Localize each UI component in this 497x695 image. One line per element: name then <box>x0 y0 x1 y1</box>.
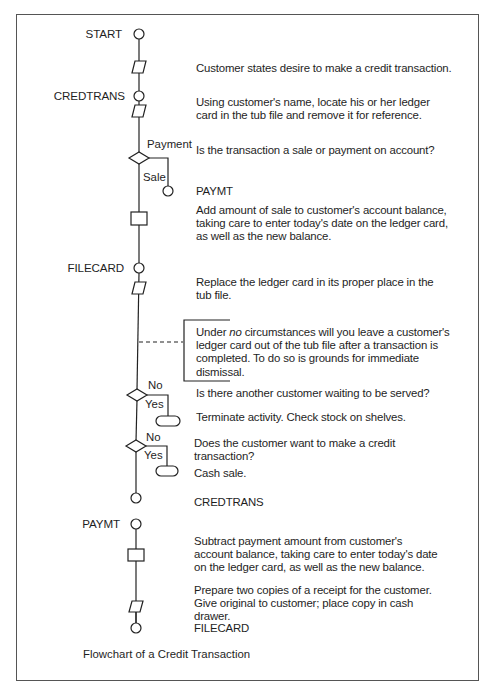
start-connector-icon <box>134 29 144 39</box>
connector-label-credtrans: CREDTRANS <box>30 89 125 103</box>
decision-diamond-icon <box>127 389 147 401</box>
step-description: Subtract payment amount from customer's … <box>194 535 444 575</box>
credtrans-connector-icon <box>131 493 141 503</box>
terminal-description: Cash sale. <box>194 467 459 480</box>
connector-label-start: START <box>60 27 122 41</box>
connector-label-paymt: PAYMT <box>50 517 120 531</box>
branch-label-no: No <box>148 379 163 392</box>
step-description: Customer states desire to make a credit … <box>196 62 476 75</box>
flow-line <box>136 400 137 441</box>
credtrans-connector-icon <box>134 91 144 101</box>
input-output-icon <box>132 61 146 73</box>
branch-label-yes: Yes <box>145 398 164 411</box>
branch-label-payment: Payment <box>147 138 192 151</box>
annotation-note: Under no circumstances will you leave a … <box>196 326 451 379</box>
terminal-description: Terminate activity. Check stock on shelv… <box>196 411 476 424</box>
note-text: Under <box>196 326 229 338</box>
process-box-icon <box>131 212 147 225</box>
decision-question: Does the customer want to make a credit … <box>194 437 409 463</box>
filecard-connector-icon <box>134 263 144 273</box>
decision-diamond-icon <box>129 152 149 164</box>
input-output-icon <box>132 105 146 117</box>
paymt-connector-icon <box>163 186 173 196</box>
branch-label-sale: Sale <box>143 171 166 184</box>
figure-caption: Flowchart of a Credit Transaction <box>83 648 250 660</box>
process-box-icon <box>128 549 144 561</box>
decision-question: Is there another customer waiting to be … <box>196 387 476 400</box>
filecard-connector-icon <box>131 623 141 633</box>
decision-diamond-icon <box>126 440 146 452</box>
branch-label-yes: Yes <box>144 449 163 462</box>
input-output-icon <box>132 282 146 294</box>
terminal-icon <box>156 466 178 476</box>
connector-target-paymt: PAYMT <box>196 185 461 198</box>
step-description: Prepare two copies of a receipt for the … <box>194 584 444 624</box>
step-description: Replace the ledger card in its proper pl… <box>196 276 451 302</box>
step-description: Using customer's name, locate his or her… <box>196 96 441 122</box>
paymt-connector-icon <box>131 519 141 529</box>
input-output-icon <box>129 601 143 612</box>
step-description: Add amount of sale to customer's account… <box>196 204 458 244</box>
note-emphasis: no <box>229 326 241 338</box>
connector-target-credtrans: CREDTRANS <box>194 496 459 509</box>
connector-target-filecard: FILECARD <box>194 622 459 635</box>
decision-question: Is the transaction a sale or payment on … <box>196 144 476 157</box>
connector-label-filecard: FILECARD <box>40 261 124 275</box>
branch-label-no: No <box>146 431 161 444</box>
terminal-icon <box>156 416 180 426</box>
